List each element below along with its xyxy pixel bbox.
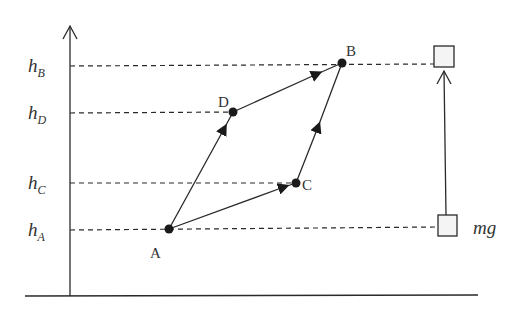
label-hB: hB xyxy=(28,55,46,80)
level-line-hA xyxy=(70,227,438,230)
path-independence-diagram: hB hD hC hA A B C D mg xyxy=(0,0,528,312)
point-label-C: C xyxy=(302,177,312,193)
label-hA: hA xyxy=(28,219,46,244)
point-D xyxy=(229,108,238,117)
point-label-B: B xyxy=(346,43,356,59)
weight-label-mg: mg xyxy=(473,217,496,238)
object-box-bottom xyxy=(438,215,457,236)
point-label-D: D xyxy=(218,94,229,110)
point-label-A: A xyxy=(150,245,161,261)
path-A-C-B xyxy=(169,63,342,229)
label-hC: hC xyxy=(28,172,47,197)
ground-line xyxy=(25,295,478,296)
level-line-hB xyxy=(70,64,434,66)
point-C xyxy=(292,179,301,188)
object-box-top xyxy=(434,46,454,67)
level-line-hD xyxy=(70,112,233,113)
path-A-D-B xyxy=(169,63,342,229)
point-B xyxy=(338,59,347,68)
lift-arrow xyxy=(437,71,451,215)
point-A xyxy=(165,225,174,234)
label-hD: hD xyxy=(28,102,47,127)
